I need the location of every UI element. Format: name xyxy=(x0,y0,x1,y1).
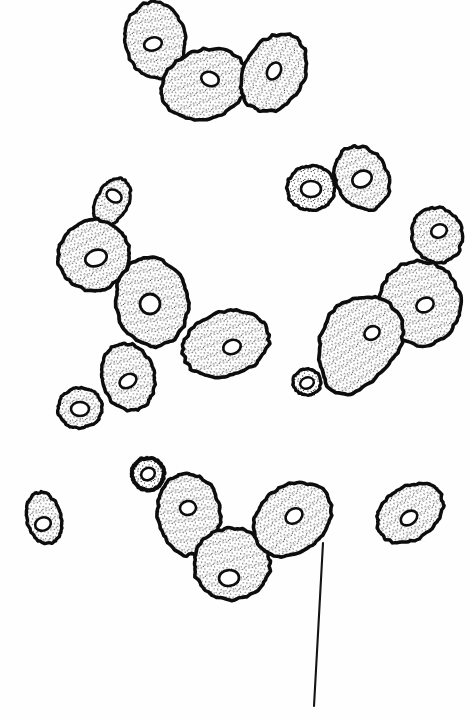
bottom-cluster xyxy=(132,458,347,607)
illustration-canvas xyxy=(0,0,470,719)
pointer-line xyxy=(314,543,323,706)
cell-nucleus xyxy=(140,294,160,314)
cell-nucleus xyxy=(179,500,197,517)
upper-right-pair xyxy=(287,136,402,221)
cell-nucleus xyxy=(301,181,321,197)
cell-nucleus xyxy=(218,569,239,587)
cell-nucleus xyxy=(71,402,89,416)
right-chain xyxy=(292,200,470,405)
yeast-cell-illustration xyxy=(0,0,470,719)
top-cluster xyxy=(120,0,321,131)
left-chain xyxy=(46,172,278,432)
cells-layer xyxy=(20,0,470,607)
